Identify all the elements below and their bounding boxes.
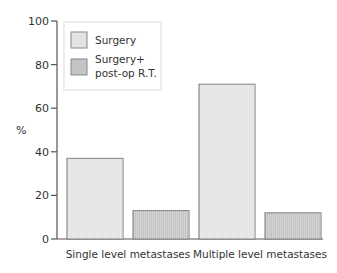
- y-tick-label: 80: [35, 59, 49, 72]
- legend-swatch: [71, 59, 87, 75]
- y-axis-label: %: [16, 124, 26, 137]
- x-tick-label: Multiple level metastases: [193, 248, 327, 260]
- bar-hatch: [133, 211, 189, 239]
- legend-swatch: [71, 32, 87, 48]
- y-tick-label: 40: [35, 146, 49, 159]
- y-tick-label: 0: [42, 233, 49, 246]
- legend-label: post-op R.T.: [95, 67, 157, 79]
- bar-hatch: [199, 84, 255, 239]
- y-tick-label: 60: [35, 102, 49, 115]
- x-tick-label: Single level metastases: [66, 248, 191, 260]
- y-tick-label: 20: [35, 189, 49, 202]
- bar-hatch: [67, 158, 123, 239]
- y-tick-label: 100: [28, 15, 49, 28]
- bar-hatch: [265, 213, 321, 239]
- legend-label: Surgery+: [95, 53, 145, 65]
- legend-label: Surgery: [95, 34, 136, 46]
- bar-chart: 020406080100 Single level metastasesMult…: [0, 0, 337, 273]
